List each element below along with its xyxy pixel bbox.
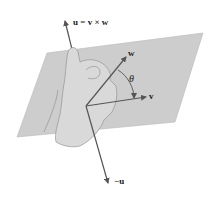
cross-product-diagram: u = v × w w θ v −u [0, 0, 213, 199]
v-label: v [149, 91, 154, 101]
theta-label: θ [129, 73, 134, 84]
neg-u-label: −u [114, 176, 124, 186]
u-label: u = v × w [73, 17, 109, 27]
w-label: w [128, 48, 135, 58]
